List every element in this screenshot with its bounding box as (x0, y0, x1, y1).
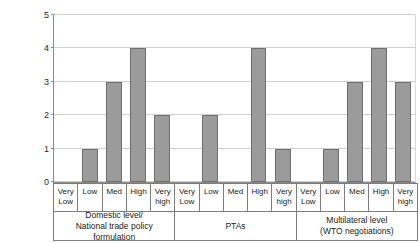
bar-slot (247, 15, 271, 182)
bar-slot (319, 15, 343, 182)
category-label: High (127, 184, 151, 211)
bar (323, 149, 339, 182)
bar-slot (295, 15, 319, 182)
ytick-label-4: 4 (44, 44, 49, 53)
bar (251, 48, 267, 182)
category-label-table: Very LowLowMedHighVery highVery LowLowMe… (53, 183, 418, 241)
category-label: High (248, 184, 272, 211)
category-row: Very LowLowMedHighVery highVery LowLowMe… (53, 183, 418, 211)
ytick-label-0: 0 (44, 178, 49, 187)
category-label: Very high (151, 184, 175, 211)
bar (130, 48, 146, 182)
ytick-label-1: 1 (44, 144, 49, 153)
bar (154, 115, 170, 182)
category-label: Very high (394, 184, 417, 211)
bar-chart-figure: 012345 Very LowLowMedHighVery highVery L… (0, 0, 420, 243)
bars-layer (54, 15, 415, 182)
category-label: Low (200, 184, 224, 211)
bar (202, 115, 218, 182)
group-label-text: PTAs (225, 221, 245, 232)
bar-slot (367, 15, 391, 182)
bar (395, 82, 411, 182)
bar-slot (198, 15, 222, 182)
group-label: Multilateral level(WTO negotiations) (297, 212, 417, 240)
group-label-text: Domestic level/National trade policy for… (55, 212, 173, 240)
bar-slot (102, 15, 126, 182)
bar-slot (343, 15, 367, 182)
ytick-label-3: 3 (44, 77, 49, 86)
ytick-label-2: 2 (44, 111, 49, 120)
group-label: PTAs (175, 212, 296, 240)
bar-slot (78, 15, 102, 182)
category-label: Very Low (175, 184, 199, 211)
category-label: Very Low (54, 184, 78, 211)
plot-area: 012345 (53, 14, 416, 183)
category-label: Med (224, 184, 248, 211)
group-row: Domestic level/National trade policy for… (53, 211, 418, 241)
ytick-label-5: 5 (44, 11, 49, 20)
bar-slot (126, 15, 150, 182)
bar (347, 82, 363, 182)
bar-slot (222, 15, 246, 182)
bar (82, 149, 98, 182)
category-label: Very high (272, 184, 296, 211)
category-label: Very Low (297, 184, 321, 211)
bar-slot (271, 15, 295, 182)
group-label-text: Multilateral level(WTO negotiations) (320, 215, 394, 237)
bar (106, 82, 122, 182)
category-label: Med (345, 184, 369, 211)
category-label: Med (103, 184, 127, 211)
category-label: High (369, 184, 393, 211)
bar (371, 48, 387, 182)
bar-slot (391, 15, 415, 182)
bar-slot (54, 15, 78, 182)
category-label: Low (78, 184, 102, 211)
group-label: Domestic level/National trade policy for… (54, 212, 175, 240)
category-label: Low (321, 184, 345, 211)
bar-slot (174, 15, 198, 182)
plot-region: 012345 (18, 8, 416, 183)
bar (275, 149, 291, 182)
bar-slot (150, 15, 174, 182)
